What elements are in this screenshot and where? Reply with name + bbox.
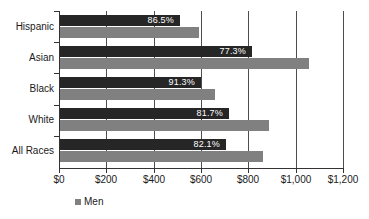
bar-label-hispanic: 86.5%: [147, 15, 174, 26]
legend-label-men: Men: [84, 196, 103, 207]
bar-men-white: 81.7%: [59, 108, 229, 119]
bar-group-asian: 77.3%: [59, 46, 343, 69]
y-tick-hispanic: [54, 11, 59, 12]
bar-group-white: 81.7%: [59, 108, 343, 131]
bar-label-all-races: 82.1%: [193, 139, 220, 150]
y-axis-label-white: White: [0, 114, 54, 125]
bar-group-hispanic: 86.5%: [59, 15, 343, 38]
x-tick-0: [59, 169, 60, 173]
x-tick-200: [106, 169, 107, 173]
y-axis-label-asian: Asian: [0, 52, 54, 63]
bar-women-hispanic: [59, 27, 199, 38]
bar-men-asian: 77.3%: [59, 46, 252, 57]
bar-men-all-races: 82.1%: [59, 139, 226, 150]
bar-women-black: [59, 89, 215, 100]
bar-group-all-races: 82.1%: [59, 139, 343, 162]
y-axis-line: [59, 11, 60, 169]
y-tick-all-races: [54, 136, 59, 137]
y-axis-label-all-races: All Races: [0, 145, 54, 156]
bar-women-asian: [59, 58, 309, 69]
x-tick-1200: [343, 169, 344, 173]
bar-chart: 86.5% 77.3% 91.3% 81.7%: [0, 0, 369, 219]
y-tick-black: [54, 73, 59, 74]
bar-label-black: 91.3%: [168, 77, 195, 88]
y-axis-label-hispanic: Hispanic: [0, 21, 54, 32]
gridline-1200: [343, 11, 344, 168]
bar-men-black: 91.3%: [59, 77, 201, 88]
chart-legend: Men: [75, 196, 103, 207]
bar-women-white: [59, 120, 269, 131]
x-tick-400: [154, 169, 155, 173]
plot-area: 86.5% 77.3% 91.3% 81.7%: [59, 11, 343, 168]
bar-men-hispanic: 86.5%: [59, 15, 180, 26]
bar-label-white: 81.7%: [196, 108, 223, 119]
x-tick-800: [248, 169, 249, 173]
bar-label-asian: 77.3%: [219, 46, 246, 57]
y-axis-label-black: Black: [0, 83, 54, 94]
bar-group-black: 91.3%: [59, 77, 343, 100]
y-tick-asian: [54, 42, 59, 43]
x-axis-label-1200: $1,200: [313, 174, 369, 185]
y-tick-white: [54, 105, 59, 106]
x-tick-600: [201, 169, 202, 173]
legend-swatch-icon-men: [75, 199, 81, 205]
bar-women-all-races: [59, 151, 263, 162]
x-tick-1000: [296, 169, 297, 173]
